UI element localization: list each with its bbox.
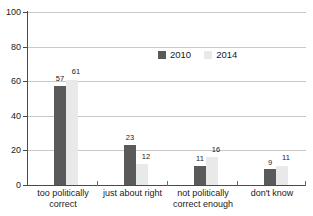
bar-value-2014-just-about-right: 12 bbox=[136, 153, 156, 161]
legend-item-2014[interactable]: 2014 bbox=[204, 50, 237, 60]
bar-2010-too-politically-correct[interactable] bbox=[54, 86, 66, 185]
legend-swatch-icon-2014 bbox=[204, 51, 212, 59]
bar-value-2014-dont-know: 11 bbox=[276, 154, 296, 162]
bar-value-2010-not-politically-correct-enough: 11 bbox=[190, 155, 210, 163]
y-tick-label-20: 20 bbox=[0, 146, 21, 155]
category-label-line2: correct enough bbox=[167, 199, 239, 210]
legend: 2010 2014 bbox=[158, 50, 237, 60]
y-tick-label-0: 0 bbox=[0, 181, 21, 190]
bar-value-2010-too-politically-correct: 57 bbox=[50, 75, 70, 83]
legend-label-2010: 2010 bbox=[170, 50, 191, 60]
bar-2010-dont-know[interactable] bbox=[264, 169, 276, 185]
category-label-line1: too politically bbox=[28, 188, 98, 199]
y-tick-label-60: 60 bbox=[0, 77, 21, 86]
category-label-line1: don't know bbox=[238, 188, 306, 199]
x-axis-category-labels: too politically correct just about right… bbox=[28, 188, 306, 216]
bar-2014-dont-know[interactable] bbox=[276, 166, 288, 185]
legend-label-2014: 2014 bbox=[216, 50, 237, 60]
y-axis-labels: 100 80 60 40 20 0 bbox=[0, 0, 21, 216]
bar-chart: 100 80 60 40 20 0 57 61 23 bbox=[0, 0, 313, 216]
category-label-line2: correct bbox=[28, 199, 98, 210]
plot-area: 57 61 23 12 11 16 9 11 bbox=[28, 12, 306, 185]
y-tick-label-40: 40 bbox=[0, 112, 21, 121]
category-label-line1: just about right bbox=[97, 188, 168, 199]
bar-group-dont-know: 9 11 bbox=[238, 12, 306, 185]
category-label-just-about-right: just about right bbox=[97, 188, 168, 199]
bar-value-2014-too-politically-correct: 61 bbox=[66, 68, 86, 76]
bar-value-2014-not-politically-correct-enough: 16 bbox=[206, 146, 226, 154]
category-label-line1: not politically bbox=[167, 188, 239, 199]
bar-2010-not-politically-correct-enough[interactable] bbox=[194, 166, 206, 185]
category-label-dont-know: don't know bbox=[238, 188, 306, 199]
bar-group-too-politically-correct: 57 61 bbox=[28, 12, 97, 185]
bar-group-not-politically-correct-enough: 11 16 bbox=[168, 12, 238, 185]
bar-group-just-about-right: 23 12 bbox=[98, 12, 168, 185]
y-tick-label-100: 100 bbox=[0, 8, 21, 17]
category-label-too-politically-correct: too politically correct bbox=[28, 188, 98, 210]
category-label-not-politically-correct-enough: not politically correct enough bbox=[167, 188, 239, 210]
legend-item-2010[interactable]: 2010 bbox=[158, 50, 191, 60]
bar-2014-just-about-right[interactable] bbox=[136, 164, 148, 185]
bar-value-2010-just-about-right: 23 bbox=[120, 134, 140, 142]
legend-swatch-icon-2010 bbox=[158, 51, 166, 59]
y-tick-label-80: 80 bbox=[0, 43, 21, 52]
bar-2014-too-politically-correct[interactable] bbox=[66, 80, 78, 186]
bar-2010-just-about-right[interactable] bbox=[124, 145, 136, 185]
